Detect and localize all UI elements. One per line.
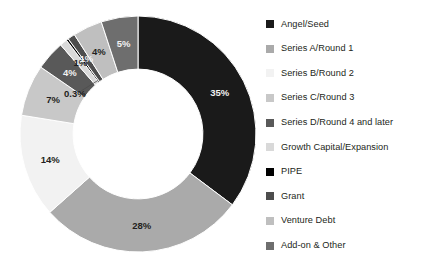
legend-item[interactable]: Series B/Round 2 bbox=[266, 61, 418, 86]
legend-swatch-icon bbox=[266, 94, 274, 102]
chart-legend: Angel/SeedSeries A/Round 1Series B/Round… bbox=[266, 12, 418, 258]
legend-item[interactable]: Grant bbox=[266, 184, 418, 209]
legend-item-label: Series A/Round 1 bbox=[281, 44, 353, 53]
legend-item-label: Series C/Round 3 bbox=[281, 93, 354, 102]
legend-swatch-icon bbox=[266, 242, 274, 250]
donut-value-label: 28% bbox=[132, 220, 152, 231]
legend-item-label: Grant bbox=[281, 192, 304, 201]
legend-item[interactable]: Angel/Seed bbox=[266, 12, 418, 37]
legend-swatch-icon bbox=[266, 119, 274, 127]
legend-swatch-icon bbox=[266, 20, 274, 28]
legend-item[interactable]: Add-on & Other bbox=[266, 233, 418, 258]
legend-item-label: Venture Debt bbox=[281, 216, 335, 225]
donut-value-label: 35% bbox=[210, 87, 230, 98]
donut-chart-figure: 35%28%14%7%4%1%0.3%1%4%5% Angel/SeedSeri… bbox=[0, 0, 422, 267]
donut-value-label: 4% bbox=[92, 46, 106, 57]
legend-item[interactable]: Series C/Round 3 bbox=[266, 86, 418, 111]
legend-swatch-icon bbox=[266, 192, 274, 200]
legend-item[interactable]: Growth Capital/Expansion bbox=[266, 135, 418, 160]
donut-value-label: 4% bbox=[63, 67, 77, 78]
donut-value-label: 5% bbox=[117, 38, 131, 49]
donut-chart-plot-area: 35%28%14%7%4%1%0.3%1%4%5% bbox=[18, 14, 258, 254]
legend-item-label: Series D/Round 4 and later bbox=[281, 118, 393, 127]
donut-slices-group bbox=[20, 16, 256, 252]
legend-item-label: Angel/Seed bbox=[281, 20, 329, 29]
legend-item-label: PIPE bbox=[281, 167, 302, 176]
legend-item[interactable]: Series D/Round 4 and later bbox=[266, 110, 418, 135]
donut-value-label: 7% bbox=[46, 94, 60, 105]
legend-item-label: Growth Capital/Expansion bbox=[281, 143, 388, 152]
legend-swatch-icon bbox=[266, 69, 274, 77]
donut-svg: 35%28%14%7%4%1%0.3%1%4%5% bbox=[18, 14, 258, 254]
legend-swatch-icon bbox=[266, 143, 274, 151]
legend-swatch-icon bbox=[266, 168, 274, 176]
legend-item[interactable]: Series A/Round 1 bbox=[266, 37, 418, 62]
legend-swatch-icon bbox=[266, 217, 274, 225]
legend-swatch-icon bbox=[266, 45, 274, 53]
donut-value-label: 0.3% bbox=[64, 88, 86, 99]
donut-value-label: 14% bbox=[41, 154, 61, 165]
legend-item-label: Series B/Round 2 bbox=[281, 69, 354, 78]
legend-item[interactable]: Venture Debt bbox=[266, 209, 418, 234]
donut-slice[interactable] bbox=[138, 16, 256, 205]
legend-item[interactable]: PIPE bbox=[266, 160, 418, 185]
legend-item-label: Add-on & Other bbox=[281, 241, 346, 250]
